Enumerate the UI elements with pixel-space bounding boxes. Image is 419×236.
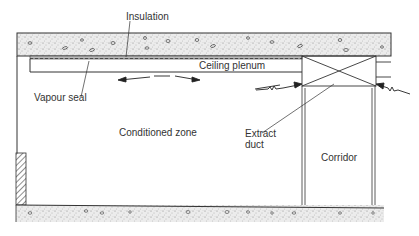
extract-duct-label-line1: Extract — [245, 128, 276, 139]
insulation-label: Insulation — [126, 11, 169, 22]
floor-slab — [16, 205, 384, 222]
extract-duct — [302, 56, 376, 86]
corridor-label: Corridor — [321, 152, 357, 163]
conditioned-zone-label: Conditioned zone — [119, 127, 197, 138]
ceiling-plenum-label: Ceiling plenum — [199, 60, 265, 71]
vapour-seal-label: Vapour seal — [34, 92, 87, 103]
extract-duct-label-line2: duct — [245, 139, 264, 150]
section-diagram — [0, 0, 419, 236]
insulation-layer — [30, 56, 302, 59]
airflow-in-left-arrow — [256, 82, 302, 90]
hatched-column — [16, 153, 26, 205]
extract-duct-leader — [262, 84, 334, 133]
airflow-in-right-arrow — [376, 83, 410, 94]
airflow-arrows — [118, 76, 280, 89]
roof-slab — [17, 33, 391, 56]
duct-stub — [376, 62, 391, 77]
corridor-walls — [302, 86, 375, 208]
